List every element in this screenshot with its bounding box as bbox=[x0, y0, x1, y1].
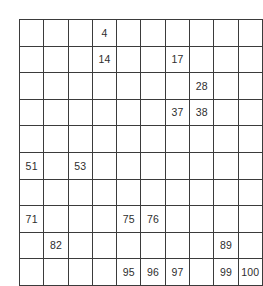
chart-cell-blank[interactable] bbox=[44, 99, 68, 126]
chart-cell-blank[interactable] bbox=[190, 46, 214, 73]
chart-cell-blank[interactable] bbox=[141, 126, 165, 153]
chart-cell-blank[interactable] bbox=[44, 20, 68, 47]
chart-cell-filled: 53 bbox=[68, 152, 92, 179]
hundred-chart-row: 3738 bbox=[20, 99, 263, 126]
chart-cell-blank[interactable] bbox=[92, 206, 116, 233]
chart-cell-blank[interactable] bbox=[238, 99, 262, 126]
chart-cell-blank[interactable] bbox=[190, 152, 214, 179]
chart-cell-blank[interactable] bbox=[141, 152, 165, 179]
chart-cell-blank[interactable] bbox=[214, 73, 238, 100]
chart-cell-blank[interactable] bbox=[20, 232, 44, 259]
chart-cell-blank[interactable] bbox=[165, 206, 189, 233]
chart-cell-blank[interactable] bbox=[68, 99, 92, 126]
chart-cell-blank[interactable] bbox=[68, 259, 92, 286]
chart-cell-blank[interactable] bbox=[117, 99, 141, 126]
chart-cell-filled: 76 bbox=[141, 206, 165, 233]
chart-cell-blank[interactable] bbox=[92, 232, 116, 259]
chart-cell-blank[interactable] bbox=[141, 46, 165, 73]
hundred-chart-row: 28 bbox=[20, 73, 263, 100]
chart-cell-blank[interactable] bbox=[92, 259, 116, 286]
chart-cell-filled: 4 bbox=[92, 20, 116, 47]
chart-cell-blank[interactable] bbox=[44, 259, 68, 286]
chart-cell-blank[interactable] bbox=[44, 206, 68, 233]
chart-cell-blank[interactable] bbox=[190, 179, 214, 206]
chart-cell-blank[interactable] bbox=[44, 179, 68, 206]
chart-cell-blank[interactable] bbox=[190, 206, 214, 233]
chart-cell-blank[interactable] bbox=[238, 73, 262, 100]
chart-cell-blank[interactable] bbox=[68, 232, 92, 259]
chart-cell-blank[interactable] bbox=[165, 179, 189, 206]
hundred-chart-row: 4 bbox=[20, 20, 263, 47]
chart-cell-blank[interactable] bbox=[68, 46, 92, 73]
chart-cell-blank[interactable] bbox=[141, 232, 165, 259]
chart-cell-blank[interactable] bbox=[238, 152, 262, 179]
chart-cell-filled: 71 bbox=[20, 206, 44, 233]
chart-cell-blank[interactable] bbox=[117, 20, 141, 47]
chart-cell-blank[interactable] bbox=[190, 232, 214, 259]
hundred-chart-row: 5153 bbox=[20, 152, 263, 179]
chart-cell-filled: 82 bbox=[44, 232, 68, 259]
chart-cell-blank[interactable] bbox=[214, 179, 238, 206]
chart-cell-filled: 17 bbox=[165, 46, 189, 73]
chart-cell-blank[interactable] bbox=[68, 179, 92, 206]
chart-cell-blank[interactable] bbox=[141, 99, 165, 126]
chart-cell-blank[interactable] bbox=[238, 46, 262, 73]
chart-cell-blank[interactable] bbox=[238, 126, 262, 153]
chart-cell-blank[interactable] bbox=[20, 73, 44, 100]
chart-cell-blank[interactable] bbox=[165, 152, 189, 179]
chart-cell-blank[interactable] bbox=[190, 20, 214, 47]
chart-cell-blank[interactable] bbox=[44, 152, 68, 179]
chart-cell-blank[interactable] bbox=[141, 179, 165, 206]
chart-cell-blank[interactable] bbox=[165, 126, 189, 153]
chart-cell-blank[interactable] bbox=[117, 232, 141, 259]
chart-cell-blank[interactable] bbox=[190, 259, 214, 286]
chart-cell-blank[interactable] bbox=[20, 179, 44, 206]
chart-cell-blank[interactable] bbox=[117, 126, 141, 153]
chart-cell-blank[interactable] bbox=[117, 73, 141, 100]
chart-cell-blank[interactable] bbox=[92, 152, 116, 179]
chart-cell-blank[interactable] bbox=[44, 126, 68, 153]
chart-cell-blank[interactable] bbox=[141, 73, 165, 100]
hundred-chart-worksheet: 414172837385153717576828995969799100 bbox=[0, 0, 255, 275]
chart-cell-blank[interactable] bbox=[68, 73, 92, 100]
hundred-chart-table: 414172837385153717576828995969799100 bbox=[19, 19, 263, 286]
chart-cell-blank[interactable] bbox=[214, 126, 238, 153]
chart-cell-blank[interactable] bbox=[214, 20, 238, 47]
chart-cell-blank[interactable] bbox=[92, 99, 116, 126]
chart-cell-blank[interactable] bbox=[165, 20, 189, 47]
chart-cell-blank[interactable] bbox=[141, 20, 165, 47]
chart-cell-blank[interactable] bbox=[214, 46, 238, 73]
chart-cell-blank[interactable] bbox=[20, 259, 44, 286]
hundred-chart-row bbox=[20, 179, 263, 206]
chart-cell-blank[interactable] bbox=[190, 126, 214, 153]
chart-cell-filled: 37 bbox=[165, 99, 189, 126]
chart-cell-blank[interactable] bbox=[214, 99, 238, 126]
chart-cell-blank[interactable] bbox=[20, 126, 44, 153]
chart-cell-blank[interactable] bbox=[165, 232, 189, 259]
chart-cell-blank[interactable] bbox=[238, 232, 262, 259]
chart-cell-blank[interactable] bbox=[92, 179, 116, 206]
chart-cell-blank[interactable] bbox=[117, 46, 141, 73]
chart-cell-blank[interactable] bbox=[117, 152, 141, 179]
chart-cell-blank[interactable] bbox=[20, 46, 44, 73]
chart-cell-blank[interactable] bbox=[44, 46, 68, 73]
chart-cell-blank[interactable] bbox=[92, 73, 116, 100]
chart-cell-blank[interactable] bbox=[238, 179, 262, 206]
chart-cell-blank[interactable] bbox=[68, 206, 92, 233]
chart-cell-blank[interactable] bbox=[20, 99, 44, 126]
chart-cell-blank[interactable] bbox=[238, 206, 262, 233]
hundred-chart-row: 8289 bbox=[20, 232, 263, 259]
chart-cell-blank[interactable] bbox=[165, 73, 189, 100]
chart-cell-filled: 89 bbox=[214, 232, 238, 259]
chart-cell-blank[interactable] bbox=[92, 126, 116, 153]
chart-cell-blank[interactable] bbox=[68, 126, 92, 153]
chart-cell-blank[interactable] bbox=[20, 20, 44, 47]
chart-cell-blank[interactable] bbox=[117, 179, 141, 206]
chart-cell-blank[interactable] bbox=[68, 20, 92, 47]
chart-cell-blank[interactable] bbox=[214, 206, 238, 233]
chart-cell-filled: 96 bbox=[141, 259, 165, 286]
chart-cell-blank[interactable] bbox=[44, 73, 68, 100]
chart-cell-blank[interactable] bbox=[214, 152, 238, 179]
hundred-chart-row: 95969799100 bbox=[20, 259, 263, 286]
chart-cell-blank[interactable] bbox=[238, 20, 262, 47]
